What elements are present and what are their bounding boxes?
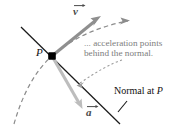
annotation-leader-line [80, 60, 122, 83]
annotation-line-2: behind the normal. [84, 49, 162, 59]
acceleration-arrow-accent [86, 104, 92, 108]
physics-vector-diagram: P v a ... acceleration points behind the… [0, 0, 184, 128]
velocity-vector-label: v [73, 3, 78, 18]
normal-line-label: Normal at P [114, 86, 163, 97]
normal-label-leader [118, 101, 127, 112]
point-marker-P [48, 52, 56, 60]
trajectory-arrowhead [120, 18, 130, 25]
point-label-P: P [36, 47, 43, 59]
normal-label-point: P [157, 85, 163, 96]
velocity-arrow-accent [73, 3, 78, 7]
annotation-text: ... acceleration points behind the norma… [84, 39, 162, 59]
acceleration-vector-label: a [86, 104, 92, 119]
normal-label-text: Normal at [114, 85, 157, 96]
annotation-line-1: ... acceleration points [84, 38, 162, 48]
